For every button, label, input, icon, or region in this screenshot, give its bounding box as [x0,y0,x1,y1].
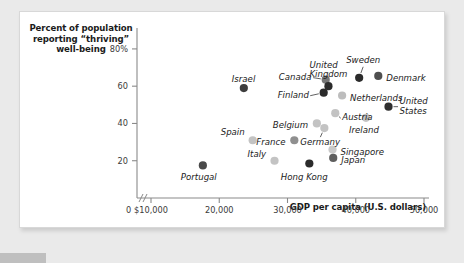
data-point [324,82,332,90]
data-point [305,159,313,167]
data-point [329,154,337,162]
chart-canvas [20,12,446,229]
data-point [320,89,328,97]
y-tick-label: 40 [94,118,128,128]
x-tick-label: 20,000 [189,205,249,215]
data-point [320,124,328,132]
data-point [290,136,298,144]
country-label: Belgium [273,121,308,131]
figure-panel: Percent of population reporting “thrivin… [19,11,445,228]
data-point [270,157,278,165]
country-label: Netherlands [350,94,402,104]
country-label: France [256,138,285,148]
leader-line [361,67,363,73]
country-label: Germany [300,138,340,148]
country-label: Italy [248,150,267,160]
data-point [338,91,346,99]
y-tick-label: 60 [94,81,128,91]
y-tick-label: 80% [94,44,128,54]
leader-line [310,94,319,96]
country-label: Israel [232,75,256,85]
country-label: UnitedStates [400,97,428,116]
leader-line [339,117,341,119]
x-tick-label: 30,000 [258,205,318,215]
data-point [313,119,321,127]
country-label: Ireland [349,126,379,136]
country-label: Japan [341,156,365,166]
country-label: Austria [342,113,372,123]
data-point [355,74,363,82]
country-label: Sweden [346,56,380,66]
data-point [374,72,382,80]
country-label: UnitedKingdom [309,61,347,80]
data-point [199,161,207,169]
country-label: Finland [278,91,309,101]
origin-zero-label: 0 [126,205,131,215]
data-point [240,84,248,92]
country-label: Canada [279,73,312,83]
data-point [331,109,339,117]
data-point [384,103,392,111]
scatter-plot: Percent of population reporting “thrivin… [20,12,446,229]
x-tick-label: 40,000 [326,205,386,215]
country-label: Spain [221,128,245,138]
country-label: Denmark [386,74,426,84]
country-label: Hong Kong [281,173,328,183]
y-tick-label: 20 [94,156,128,166]
x-tick-label: 50,000 [394,205,454,215]
page-corner-tab [0,253,46,263]
country-label: Portugal [181,173,217,183]
